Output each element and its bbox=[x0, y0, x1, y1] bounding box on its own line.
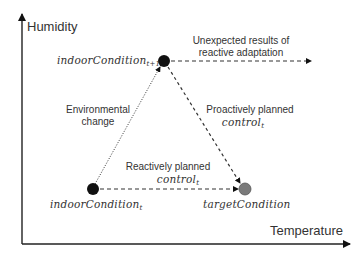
label-line1: Environmental bbox=[63, 104, 133, 116]
label-indoor-condition-next: indoorConditiont+1 bbox=[57, 54, 160, 68]
label-environmental-change: Environmental change bbox=[63, 104, 133, 128]
label-target-condition: targetCondition bbox=[203, 198, 291, 210]
label-line1: Unexpected results of bbox=[186, 35, 296, 47]
label-math-sub: t bbox=[261, 122, 264, 130]
label-line1: Proactively planned bbox=[200, 104, 300, 116]
label-line1: Reactively planned bbox=[118, 161, 218, 173]
node-target-condition bbox=[239, 183, 251, 195]
label-reactive-control: Reactively planned controlt bbox=[118, 161, 218, 189]
label-base: indoorCondition bbox=[57, 54, 146, 66]
label-math-base: control bbox=[157, 173, 196, 185]
label-subscript: t+1 bbox=[146, 60, 160, 68]
label-proactive-control: Proactively planned controlt bbox=[200, 104, 300, 132]
diagram-canvas bbox=[0, 0, 353, 254]
label-math: controlt bbox=[138, 173, 218, 189]
x-axis-label: Temperature bbox=[270, 223, 343, 238]
label-line2: change bbox=[63, 116, 133, 128]
label-math: controlt bbox=[186, 116, 300, 132]
label-math-sub: t bbox=[196, 179, 199, 187]
y-axis-label: Humidity bbox=[27, 19, 78, 34]
node-indoor-condition-now bbox=[87, 183, 99, 195]
label-math-base: control bbox=[222, 116, 261, 128]
label-unexpected-results: Unexpected results of reactive adaptatio… bbox=[186, 35, 296, 59]
label-subscript: t bbox=[139, 204, 142, 212]
label-line2: reactive adaptation bbox=[186, 47, 296, 59]
label-base: indoorCondition bbox=[50, 198, 139, 210]
label-indoor-condition-now: indoorConditiont bbox=[50, 198, 142, 212]
